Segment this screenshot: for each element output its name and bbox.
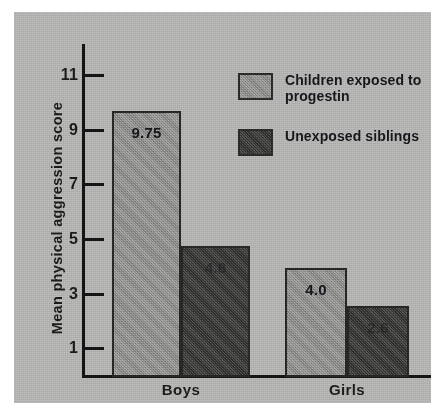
legend-swatch-light-icon [238, 73, 273, 100]
bar-value-girls-unexposed: 2.6 [349, 319, 407, 336]
bar-girls-exposed[interactable]: 4.0 [285, 268, 347, 377]
y-tick-9 [85, 129, 104, 132]
bar-value-boys-unexposed: 4.8 [183, 259, 248, 276]
plot-area: 11 9 7 5 3 1 Mean physical aggression sc… [14, 12, 431, 403]
y-tick-11 [85, 74, 104, 77]
bar-chart-figure: 11 9 7 5 3 1 Mean physical aggression sc… [0, 0, 445, 415]
legend-label-unexposed: Unexposed siblings [285, 128, 419, 144]
bar-value-girls-exposed: 4.0 [287, 281, 345, 298]
legend-item-exposed[interactable]: Children exposed to progestin [238, 72, 428, 104]
legend-label-exposed: Children exposed to progestin [285, 72, 428, 104]
legend-item-unexposed[interactable]: Unexposed siblings [238, 128, 428, 156]
bar-value-boys-exposed: 9.75 [114, 124, 179, 141]
bar-boys-unexposed[interactable]: 4.8 [181, 246, 250, 377]
y-tick-1 [85, 347, 104, 350]
legend-swatch-dark-icon [238, 129, 273, 156]
y-tick-5 [85, 238, 104, 241]
chart-legend: Children exposed to progestin Unexposed … [238, 72, 428, 180]
chart-panel: 11 9 7 5 3 1 Mean physical aggression sc… [14, 12, 431, 403]
y-tick-label-11: 11 [44, 67, 78, 83]
y-axis-line [82, 44, 85, 377]
bar-girls-unexposed[interactable]: 2.6 [347, 306, 409, 377]
y-axis-title: Mean physical aggression score [49, 93, 65, 343]
bar-boys-exposed[interactable]: 9.75 [112, 111, 181, 377]
x-category-label-girls: Girls [285, 381, 409, 398]
y-tick-3 [85, 293, 104, 296]
x-category-label-boys: Boys [112, 381, 250, 398]
y-tick-7 [85, 183, 104, 186]
